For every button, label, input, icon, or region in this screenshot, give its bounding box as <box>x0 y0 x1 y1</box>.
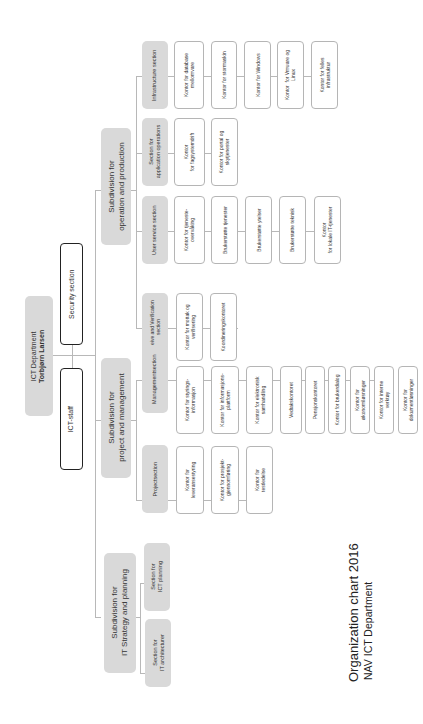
office-label: Kontor for lokale IT-tjenester <box>322 207 334 254</box>
office-label: Kontor for mottak og verifisering <box>184 304 196 349</box>
it-architecture-section-box: Section for IT architecturer <box>145 619 171 687</box>
security-section-box: Security section <box>60 243 83 345</box>
connector-project-sections <box>136 380 137 500</box>
office-box: Brukerstøtte ytelser <box>245 196 272 264</box>
office-label: Kontor for testledelse <box>254 468 266 492</box>
subdivision-operation-label: Subdivision for operation and production <box>106 142 125 231</box>
ict-planning-section-box: Section for ICT planning <box>144 543 170 611</box>
connector-main-vertical <box>95 190 96 617</box>
office-box: Vedtakskontoret <box>280 366 302 434</box>
chart-title: Organization chart 2016 <box>346 543 361 682</box>
office-box: Kontor for elektronisk samhandling <box>246 366 273 434</box>
department-box: ICT DepartmentTorbjørn Larsen <box>25 296 53 416</box>
connector-operation-sections <box>136 76 137 328</box>
connector-dept-horizontal <box>53 355 95 356</box>
ict-planning-section-label: Section for ICT planning <box>150 561 163 592</box>
project-section-box: Projectsection <box>142 445 168 513</box>
office-box: Brukerstøtte teknisk <box>279 196 306 264</box>
office-label: Kontor for elektronisk samhandling <box>254 376 266 423</box>
office-box: Koordineringskontoret <box>210 293 237 361</box>
office-box: Kontor for interne verktøy <box>374 366 394 434</box>
office-box: Kontor for fagsystemdrift <box>174 118 205 186</box>
office-box: Kontor for felles infrastruktur <box>311 41 338 109</box>
office-box: Kontor for dokumentløsninger <box>398 366 418 434</box>
office-box: Kontor for stormaskin <box>211 41 237 109</box>
subdivision-operation-box: Subdivision for operation and production <box>101 128 131 245</box>
ict-staff-label: ICT-staff <box>67 406 75 432</box>
office-label: Kontor for database mellomvare <box>183 53 195 97</box>
security-section-label: Security section <box>67 269 75 318</box>
office-label: Kontor for økonomiløsninger <box>354 380 366 420</box>
connector-operation-out <box>131 190 136 191</box>
office-label: Brukerstøtte ytelser <box>256 208 262 251</box>
office-label: Kontor for stormaskin <box>221 51 227 99</box>
office-box: Kontor for økonomiløsninger <box>350 366 370 434</box>
office-box: Kontor for styrings- informasjon <box>176 366 204 434</box>
department-head: Torbjørn Larsen <box>39 329 46 382</box>
department-label: ICT Department <box>31 331 38 381</box>
office-label: Kontor for tjeneste- overvåking <box>184 209 196 252</box>
office-box: Kontor for portal og skytjenester <box>211 118 238 186</box>
connector-staff-vertical <box>72 345 73 368</box>
office-box: Kontor for leveransestyring <box>176 446 204 514</box>
office-label: Kontor for dokumentløsninger <box>402 379 414 422</box>
connector-architecture <box>140 673 145 674</box>
office-box: Brukerstøtte tjenester <box>211 196 238 264</box>
subdivision-strategy-label: Subdivision for IT Strategy and planning <box>110 569 129 656</box>
office-label: Kontor for interne verktøy <box>378 381 390 420</box>
management-section-box: Managementsection <box>142 345 168 413</box>
office-box: Kontor for Windows <box>244 41 271 109</box>
connector-strategy-sections <box>140 583 141 673</box>
office-label: Koordineringskontoret <box>221 303 227 352</box>
it-architecture-section-label: Section for IT architecturer <box>151 635 164 672</box>
application-section-label: Section for application operations <box>148 125 161 179</box>
connector-planning <box>140 583 144 584</box>
office-label: Kontor for felles infrastruktur <box>319 57 331 92</box>
office-label: Kontor for portal og skytjenester <box>219 131 231 174</box>
office-label: Kontor for brukerdialog <box>334 375 340 426</box>
ict-staff-box: ICT-staff <box>60 368 83 470</box>
management-section-label: Managementsection <box>152 354 159 404</box>
office-box: Kontor for informasjons- plattform <box>211 366 239 434</box>
application-section-box: Section for application operations <box>142 118 168 186</box>
office-label: Brukerstøtte tjenester <box>222 206 228 254</box>
connector-strategy <box>95 617 101 618</box>
office-box: Kontor for prosjekt- gjennomføring <box>211 446 239 514</box>
office-label: Kontor for informasjons- plattform <box>219 373 231 426</box>
office-label: Kontor for prosjekt- gjennomføring <box>219 459 231 502</box>
office-box: Kontor for mottak og verifisering <box>176 293 203 361</box>
user-service-section-box: User service section <box>142 196 168 264</box>
office-box: Kontor for database mellomvare <box>174 41 204 109</box>
office-label: Kontor for styrings- informasjon <box>184 379 196 421</box>
office-label: Kontor for leveransestyring <box>184 462 196 498</box>
office-box: Pensjonskontoret <box>305 366 325 434</box>
project-section-label: Projectsection <box>152 462 159 497</box>
subdivision-project-box: Subdivision for project and management <box>101 358 131 478</box>
office-label: Brukerstøtte teknisk <box>290 208 296 252</box>
office-box: Kontor for lokale IT-tjenester <box>314 196 341 264</box>
office-box: Kontor for brukerdialog <box>328 366 346 434</box>
chart-subtitle: NAV ICT Department <box>362 582 374 680</box>
office-label: Kontor for Windows <box>255 53 261 97</box>
subdivision-project-label: Subdivision for project and management <box>106 374 125 463</box>
office-box: Kontor for Vmware og Linux <box>277 41 304 109</box>
connector-project-out <box>131 420 136 421</box>
infrastructure-section-label: Infrastructure section <box>152 49 159 100</box>
office-box: Kontor for tjeneste- overvåking <box>174 196 205 264</box>
office-label: Vedtakskontoret <box>288 382 294 418</box>
office-label: Kontor for Vmware og Linux <box>285 50 297 100</box>
office-label: Kontor for fagsystemdrift <box>184 133 196 171</box>
office-box: Kontor for testledelse <box>246 446 273 514</box>
user-service-section-label: User service section <box>152 205 159 255</box>
office-label: Pensjonskontoret <box>312 381 318 420</box>
infrastructure-section-box: Infrastructure section <box>142 41 168 109</box>
subdivision-strategy-box: Subdivision for IT Strategy and planning <box>104 553 136 673</box>
